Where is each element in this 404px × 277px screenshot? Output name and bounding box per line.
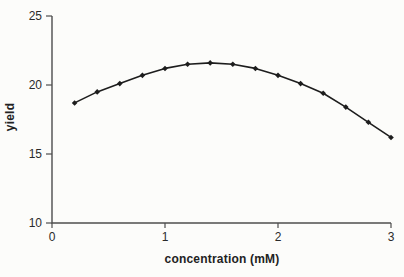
- data-point-marker: [230, 62, 236, 68]
- x-axis-title: concentration (mM): [165, 252, 280, 266]
- x-tick-label: 1: [162, 230, 169, 244]
- data-point-marker: [72, 100, 78, 106]
- data-point-marker: [275, 73, 281, 79]
- y-tick-label: 25: [29, 9, 43, 23]
- y-tick-label: 20: [29, 78, 43, 92]
- chart-figure: yield 012310152025 concentration (mM): [0, 0, 404, 277]
- data-point-marker: [207, 60, 213, 66]
- x-tick-label: 0: [49, 230, 56, 244]
- data-point-marker: [140, 73, 146, 79]
- x-tick-label: 2: [275, 230, 282, 244]
- data-line: [75, 63, 391, 137]
- data-point-marker: [185, 62, 191, 68]
- data-point-marker: [162, 66, 168, 72]
- data-point-marker: [117, 81, 123, 87]
- y-tick-label: 10: [29, 216, 43, 230]
- data-point-marker: [94, 89, 100, 95]
- data-point-marker: [253, 66, 259, 72]
- y-axis-title: yield: [3, 103, 17, 131]
- x-tick-label: 3: [388, 230, 395, 244]
- y-tick-label: 15: [29, 147, 43, 161]
- axes: [52, 16, 391, 223]
- plot-canvas: 012310152025: [0, 0, 404, 277]
- data-point-marker: [298, 81, 304, 87]
